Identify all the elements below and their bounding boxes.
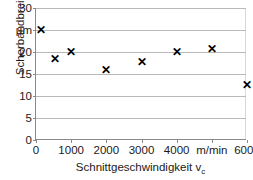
data-point-marker: ✕ [36,25,47,36]
data-point-marker: ✕ [171,47,182,58]
gridline [36,30,246,31]
x-tick-mark [106,140,107,143]
y-tick-label: 30 [2,2,32,14]
y-tick-label: µm [2,24,32,36]
data-point-marker: ✕ [101,65,112,76]
y-tick-mark [33,52,36,53]
x-axis-title-subscript: c [201,167,205,176]
y-tick-mark [33,74,36,75]
y-tick-label: 5 [2,112,32,124]
x-tick-label: 0 [33,144,39,156]
y-tick-label: 15 [2,68,32,80]
x-tick-mark [36,140,37,143]
plot-area: 05101520µm30 ✕✕✕✕✕✕✕✕ 01000200030004000m… [35,8,246,140]
x-axis-ticks: 01000200030004000m/min6000 [36,140,246,160]
x-tick-mark [212,140,213,143]
gridline [36,118,246,119]
data-point-marker: ✕ [50,54,61,65]
x-tick-mark [71,140,72,143]
y-tick-mark [33,96,36,97]
x-tick-label: 3000 [129,144,155,156]
x-tick-mark [177,140,178,143]
x-tick-mark [247,140,248,143]
x-tick-label: 4000 [164,144,190,156]
gridline [36,74,246,75]
x-tick-label: 2000 [94,144,120,156]
y-tick-label: 0 [2,134,32,146]
y-tick-label: 20 [2,46,32,58]
x-axis-title: Schnittgeschwindigkeit vc [35,161,246,176]
x-axis-title-text: Schnittgeschwindigkeit v [76,161,201,173]
x-tick-label: 1000 [58,144,84,156]
y-tick-mark [33,118,36,119]
gridline [36,8,246,9]
x-tick-label: 6000 [234,144,253,156]
data-point-marker: ✕ [242,80,253,91]
y-tick-mark [33,8,36,9]
y-tick-label: 10 [2,90,32,102]
data-point-marker: ✕ [206,44,217,55]
data-point-marker: ✕ [66,47,77,58]
x-tick-label: m/min [196,144,227,156]
x-tick-mark [142,140,143,143]
data-point-marker: ✕ [136,57,147,68]
scatter-chart: Scherbandbreite 05101520µm30 ✕✕✕✕✕✕✕✕ 01… [0,0,253,180]
gridline [36,96,246,97]
